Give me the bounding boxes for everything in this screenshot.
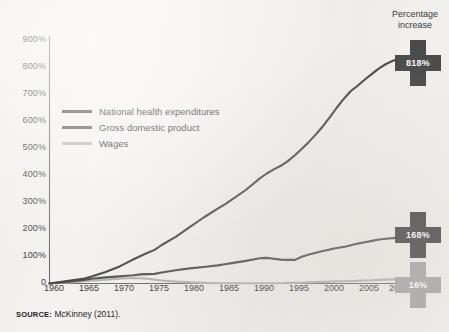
x-axis-tick-labels: 1960 1965 1970 1975 1980 1985 1990 1995 … bbox=[0, 284, 449, 304]
callout-badge-16-percent: 16% bbox=[395, 262, 441, 308]
series-line-gross-domestic-product bbox=[50, 237, 401, 283]
legend-swatch-icon bbox=[62, 142, 92, 145]
x-tick-label: 1995 bbox=[289, 284, 309, 293]
percentage-increase-title-line1: Percentage bbox=[392, 9, 438, 19]
legend-label: Gross domestic product bbox=[99, 122, 199, 133]
source-label: SOURCE: bbox=[16, 310, 52, 319]
callout-badge-label: 16% bbox=[395, 277, 441, 293]
source-note: SOURCE: McKinney (2011). bbox=[16, 309, 120, 319]
legend-swatch-icon bbox=[62, 126, 92, 129]
x-tick-label: 1990 bbox=[254, 284, 274, 293]
callout-badge-168-percent: 168% bbox=[395, 212, 441, 258]
source-citation: McKinney (2011). bbox=[54, 309, 120, 319]
legend-item-national-health-expenditures: National health expenditures bbox=[62, 103, 252, 119]
legend-swatch-icon bbox=[62, 110, 92, 113]
x-tick-label: 1985 bbox=[219, 284, 239, 293]
x-tick-label: 1965 bbox=[79, 284, 99, 293]
legend-item-wages: Wages bbox=[62, 135, 252, 151]
x-tick-label: 1975 bbox=[149, 284, 169, 293]
percentage-increase-title: Percentage increase bbox=[382, 9, 448, 31]
legend-label: Wages bbox=[99, 138, 128, 149]
chart-figure: 900% 800% 700% 600% 500% 400% 300% 200% … bbox=[0, 0, 449, 332]
x-tick-label: 2005 bbox=[359, 284, 379, 293]
series-line-national-health-expenditures bbox=[50, 59, 401, 284]
x-tick-label: 2000 bbox=[324, 284, 344, 293]
callout-badge-818-percent: 818% bbox=[395, 40, 441, 86]
legend-label: National health expenditures bbox=[99, 106, 219, 117]
callout-badge-label: 168% bbox=[395, 227, 441, 243]
chart-plot-area: 900% 800% 700% 600% 500% 400% 300% 200% … bbox=[0, 0, 449, 300]
x-tick-label: 1980 bbox=[184, 284, 204, 293]
x-tick-label: 1960 bbox=[44, 284, 64, 293]
x-tick-label: 1970 bbox=[114, 284, 134, 293]
percentage-increase-title-line2: increase bbox=[398, 20, 432, 30]
callout-badge-label: 818% bbox=[395, 55, 441, 71]
chart-legend: National health expenditures Gross domes… bbox=[62, 103, 252, 151]
legend-item-gross-domestic-product: Gross domestic product bbox=[62, 119, 252, 135]
